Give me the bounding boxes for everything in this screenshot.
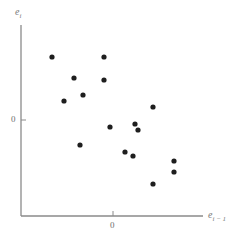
data-point [150,181,155,186]
data-point [132,121,137,126]
data-point [171,169,176,174]
data-point [135,127,140,132]
data-point [80,92,85,97]
data-point [71,75,76,80]
scatter-plot [0,0,241,237]
y-axis-label: ei [15,7,21,20]
data-point [107,124,112,129]
data-point [77,142,82,147]
data-point [61,98,66,103]
data-point [171,158,176,163]
data-point [101,77,106,82]
data-point [150,104,155,109]
data-point [49,54,54,59]
data-point [130,153,135,158]
y-axis-label-sub: i [19,12,21,20]
data-point [122,149,127,154]
x-axis-label-sub: i − 1 [212,215,226,223]
x-axis-label: ei − 1 [208,210,226,223]
data-point [101,54,106,59]
axes [21,25,203,216]
y-zero-tick-label: 0 [11,115,16,124]
data-points [49,54,176,186]
x-zero-tick-label: 0 [110,221,115,230]
